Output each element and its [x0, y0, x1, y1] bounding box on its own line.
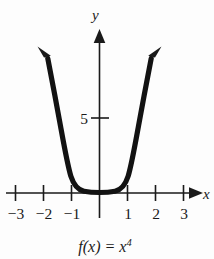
- x-axis-label: x: [202, 186, 210, 202]
- curve-left-arrowhead: [38, 47, 51, 58]
- x-tick-label--1: −1: [64, 205, 81, 222]
- x-tick-label--3: −3: [8, 205, 25, 222]
- function-equation-exponent: 4: [126, 237, 132, 248]
- x-tick-label-1: 1: [124, 205, 132, 222]
- x-axis-arrowhead: [189, 187, 203, 199]
- y-axis-label: y: [90, 7, 99, 23]
- function-equation-base: f(x) = x: [78, 238, 126, 256]
- graph-canvas: y x −3 −2 −1 1 2 3 5 f(x) = x4: [0, 0, 214, 259]
- y-tick-label-5: 5: [80, 110, 88, 127]
- x-tick-label-2: 2: [152, 205, 160, 222]
- curve-right-arrowhead: [148, 47, 161, 58]
- function-equation-label: f(x) = x4: [78, 237, 132, 256]
- x-tick-label--2: −2: [36, 205, 53, 222]
- x-tick-label-3: 3: [180, 205, 188, 222]
- graph-figure: y x −3 −2 −1 1 2 3 5 f(x) = x4: [0, 0, 214, 259]
- y-axis-arrowhead: [94, 29, 106, 43]
